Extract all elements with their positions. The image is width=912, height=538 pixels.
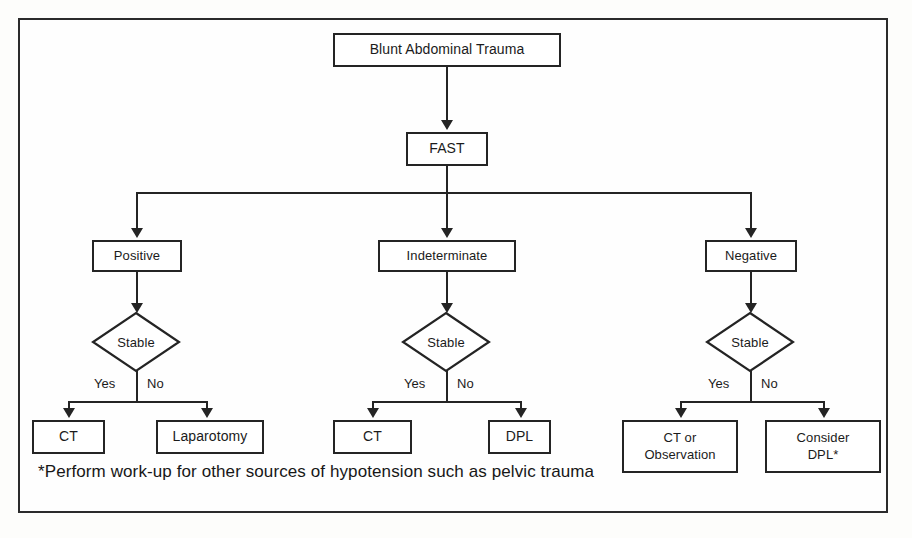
arrowhead-root-to-fast bbox=[441, 120, 453, 130]
node-laparotomy: Laparotomy bbox=[156, 420, 264, 454]
node-label-line2: DPL* bbox=[808, 447, 839, 463]
edge-label-no-positive: No bbox=[147, 376, 164, 391]
node-blunt-abdominal-trauma: Blunt Abdominal Trauma bbox=[333, 33, 561, 67]
diagram-frame: Blunt Abdominal Trauma FAST Positive bbox=[18, 18, 888, 513]
node-negative: Negative bbox=[705, 240, 797, 272]
connector-bus-to-positive bbox=[136, 192, 138, 230]
connector-fast-to-bus bbox=[446, 166, 448, 193]
decision-stable-positive: Stable bbox=[91, 311, 181, 373]
node-label: CT bbox=[59, 429, 78, 445]
connector-root-to-fast bbox=[446, 67, 448, 122]
arrowhead-to-dpl bbox=[515, 408, 527, 418]
node-label: Laparotomy bbox=[173, 429, 248, 445]
node-consider-dpl: Consider DPL* bbox=[765, 420, 881, 473]
arrowhead-to-ct-observation bbox=[675, 408, 687, 418]
arrowhead-bus-to-indeterminate bbox=[441, 228, 453, 238]
connector-split-bus-positive bbox=[68, 401, 206, 403]
edge-label-yes-positive: Yes bbox=[94, 376, 115, 391]
flowchart-canvas: Blunt Abdominal Trauma FAST Positive bbox=[0, 0, 912, 538]
arrowhead-bus-to-negative bbox=[745, 228, 757, 238]
node-fast: FAST bbox=[406, 132, 488, 166]
arrowhead-to-consider-dpl bbox=[818, 408, 830, 418]
node-ct-positive: CT bbox=[32, 420, 105, 454]
node-ct-indeterminate: CT bbox=[333, 420, 412, 454]
node-ct-or-observation: CT or Observation bbox=[622, 420, 738, 473]
connector-split-bus-indeterminate bbox=[372, 401, 522, 403]
connector-bus-to-negative bbox=[750, 192, 752, 230]
node-label: Positive bbox=[114, 249, 160, 264]
connector-stable2-to-split bbox=[446, 371, 448, 402]
arrowhead-bus-to-positive bbox=[131, 228, 143, 238]
node-label-line1: Consider bbox=[797, 430, 850, 446]
footnote-text: *Perform work-up for other sources of hy… bbox=[38, 462, 594, 482]
edge-label-yes-indeterminate: Yes bbox=[404, 376, 425, 391]
node-dpl: DPL bbox=[488, 420, 551, 454]
edge-label-yes-negative: Yes bbox=[708, 376, 729, 391]
edge-label-no-indeterminate: No bbox=[457, 376, 474, 391]
decision-label: Stable bbox=[705, 311, 795, 373]
decision-stable-indeterminate: Stable bbox=[401, 311, 491, 373]
decision-label: Stable bbox=[401, 311, 491, 373]
node-label: DPL bbox=[506, 429, 534, 445]
node-label-line1: CT or bbox=[664, 430, 697, 446]
arrowhead-to-laparotomy bbox=[201, 408, 213, 418]
node-label: CT bbox=[363, 429, 382, 445]
connector-stable1-to-split bbox=[136, 371, 138, 402]
connector-indeterminate-to-stable bbox=[446, 272, 448, 305]
decision-stable-negative: Stable bbox=[705, 311, 795, 373]
node-label: Blunt Abdominal Trauma bbox=[370, 42, 525, 58]
arrowhead-to-ct2 bbox=[367, 408, 379, 418]
connector-split-bus-negative bbox=[680, 401, 823, 403]
node-positive: Positive bbox=[92, 240, 182, 272]
node-label: Negative bbox=[725, 249, 777, 264]
node-label-line2: Observation bbox=[644, 447, 715, 463]
connector-distribution-bus bbox=[136, 192, 752, 194]
node-indeterminate: Indeterminate bbox=[378, 240, 516, 272]
connector-negative-to-stable bbox=[750, 272, 752, 305]
connector-bus-to-indeterminate bbox=[446, 192, 448, 230]
node-label: Indeterminate bbox=[407, 249, 488, 264]
edge-label-no-negative: No bbox=[761, 376, 778, 391]
arrowhead-to-ct1 bbox=[63, 408, 75, 418]
connector-stable3-to-split bbox=[750, 371, 752, 402]
decision-label: Stable bbox=[91, 311, 181, 373]
connector-positive-to-stable bbox=[136, 272, 138, 305]
node-label: FAST bbox=[429, 141, 464, 157]
